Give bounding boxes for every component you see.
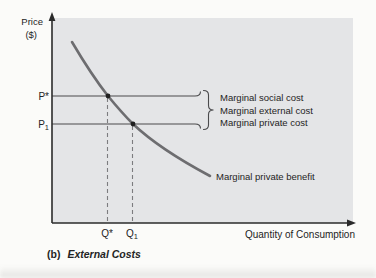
figure-caption-title: External Costs bbox=[67, 248, 141, 260]
p1-label-subscript: 1 bbox=[45, 123, 49, 132]
y-axis-arrow-icon bbox=[49, 12, 56, 21]
figure-caption-prefix: (b) bbox=[47, 248, 60, 260]
marginal-private-benefit-label: Marginal private benefit bbox=[216, 171, 315, 182]
figure-caption: (b)External Costs bbox=[47, 248, 141, 260]
marginal-social-cost-label: Marginal social cost bbox=[220, 92, 304, 103]
marginal-external-cost-label: Marginal external cost bbox=[220, 105, 313, 116]
external-costs-diagram: Price ($) P* P1 Q* Q1 Marginal social co… bbox=[0, 0, 376, 278]
plot-area bbox=[52, 18, 353, 223]
p-star-label: P* bbox=[38, 91, 49, 102]
x-axis-label: Quantity of Consumption bbox=[245, 229, 355, 240]
q1-label: Q1 bbox=[126, 228, 138, 241]
price-axis-label: Price bbox=[21, 16, 43, 27]
price-axis-unit-label: ($) bbox=[25, 29, 37, 40]
q1-label-subscript: 1 bbox=[134, 232, 138, 241]
marginal-private-cost-label: Marginal private cost bbox=[220, 117, 308, 128]
point-q1-p1 bbox=[131, 122, 136, 127]
q-star-label: Q* bbox=[101, 228, 113, 239]
point-q-star-p-star bbox=[106, 94, 111, 99]
figure-canvas: Price ($) P* P1 Q* Q1 Marginal social co… bbox=[0, 0, 376, 278]
p1-label: P1 bbox=[38, 119, 49, 132]
